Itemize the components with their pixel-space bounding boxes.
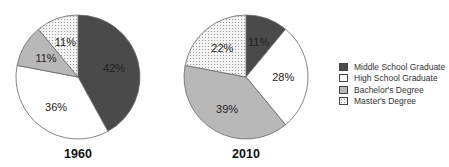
pie-label-high-school: 28%	[272, 71, 294, 83]
pie-label-bachelors: 11%	[35, 52, 56, 64]
legend-item-bachelors: Bachelor's Degree	[339, 84, 445, 96]
legend-item-high-school: High School Graduate	[339, 73, 445, 85]
legend-swatch-gray	[339, 86, 348, 94]
pie-label-masters: 11%	[55, 36, 76, 48]
legend-swatch-white	[339, 74, 348, 82]
pie-label-middle-school: 42%	[103, 62, 125, 74]
legend-item-middle-school: Middle School Graduate	[339, 61, 445, 73]
legend-item-masters: Master's Degree	[339, 96, 445, 108]
legend: Middle School Graduate High School Gradu…	[339, 61, 445, 107]
pie-label-middle-school: 11%	[248, 36, 269, 48]
pie-title-2010: 2010	[232, 147, 260, 161]
pie-label-masters: 22%	[211, 42, 233, 54]
pie-label-bachelors: 39%	[216, 103, 238, 115]
pie-1960: 42%36%11%11%	[16, 15, 140, 139]
pie-title-1960: 1960	[64, 147, 92, 161]
legend-swatch-dark	[339, 63, 348, 71]
legend-swatch-dotted	[339, 97, 348, 105]
pie-label-high-school: 36%	[45, 101, 67, 113]
pie-2010: 11%28%39%22%	[184, 15, 308, 139]
